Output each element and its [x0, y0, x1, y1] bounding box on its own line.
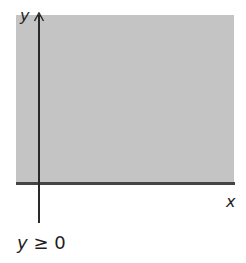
shaded-region	[16, 15, 234, 183]
x-axis-boundary-line	[16, 182, 235, 185]
y-axis-arrow-icon	[33, 12, 45, 22]
inequality-caption: y ≥ 0	[17, 232, 66, 253]
y-axis-label: y	[20, 6, 29, 25]
x-axis-label: x	[226, 192, 235, 211]
y-axis-line	[38, 15, 40, 223]
